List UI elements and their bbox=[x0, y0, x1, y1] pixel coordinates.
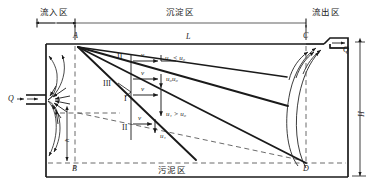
dimension-label-height: H bbox=[358, 111, 366, 117]
settling-velocity-relation-4: u₁ bbox=[160, 133, 166, 140]
particle-trajectories bbox=[78, 47, 306, 163]
trajectory-line-3 bbox=[78, 47, 306, 163]
settling-velocity-relation-3: u₁ > u₀ bbox=[166, 111, 186, 118]
flow-label-outlet: Q bbox=[343, 46, 349, 54]
velocity-symbol-v-3: v bbox=[141, 86, 144, 93]
top-zone-dimension-line bbox=[37, 19, 306, 28]
corner-label-b: B bbox=[72, 165, 77, 173]
outlet-streamlines bbox=[287, 48, 321, 168]
trajectory-label-two-bottom: II bbox=[122, 124, 127, 132]
settling-velocity-relation-2: u₀u₀ bbox=[166, 76, 178, 83]
velocity-vector-row-4 bbox=[133, 119, 155, 133]
inlet-pipe bbox=[26, 95, 46, 104]
dimension-label-length: L bbox=[186, 33, 190, 41]
corner-label-d: D bbox=[303, 165, 309, 173]
velocity-symbol-v-4: v bbox=[138, 115, 141, 122]
corner-tick-marks bbox=[75, 25, 306, 40]
zone-label-inflow: 流入区 bbox=[40, 8, 68, 17]
trajectory-label-three: III bbox=[103, 80, 111, 88]
trajectory-label-one: I bbox=[124, 95, 127, 103]
inlet-diffusion-streamlines bbox=[48, 55, 64, 156]
tank-height-dimension bbox=[352, 42, 366, 176]
zone-label-sludge: 污泥区 bbox=[158, 166, 186, 175]
corner-label-a: A bbox=[73, 32, 78, 40]
diagram-canvas bbox=[0, 0, 371, 192]
zone-label-settling: 沉淀区 bbox=[166, 8, 194, 17]
dimension-label-inlet-depth: h bbox=[64, 139, 71, 143]
trajectory-label-two-top: II bbox=[117, 53, 122, 61]
flow-label-inlet: Q bbox=[8, 95, 14, 103]
settling-velocity-relation-1: u₁ < u₀ bbox=[165, 55, 185, 62]
corner-label-c: C bbox=[303, 32, 308, 40]
velocity-symbol-v-1: v bbox=[141, 52, 144, 59]
velocity-symbol-v-2: v bbox=[141, 70, 144, 77]
zone-label-outflow: 流出区 bbox=[312, 8, 340, 17]
sedimentation-tank-diagram: 流入区 沉淀区 流出区 污泥区 A B C D L H h Q Q v v v … bbox=[0, 0, 371, 192]
